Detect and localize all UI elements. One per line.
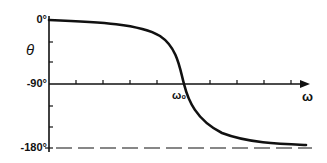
x-axis-arrow-icon xyxy=(300,80,310,88)
phase-plot xyxy=(0,0,327,163)
y-tick-label-0: 0° xyxy=(0,13,47,25)
y-axis-label: θ xyxy=(26,41,34,58)
x-axis-label: ω xyxy=(302,89,313,104)
phase-curve xyxy=(49,20,306,145)
x-marker-label: ω₀ xyxy=(172,89,186,101)
y-tick-label-minus90: -90° xyxy=(0,77,47,89)
y-tick-label-minus180: -180° xyxy=(0,141,47,153)
